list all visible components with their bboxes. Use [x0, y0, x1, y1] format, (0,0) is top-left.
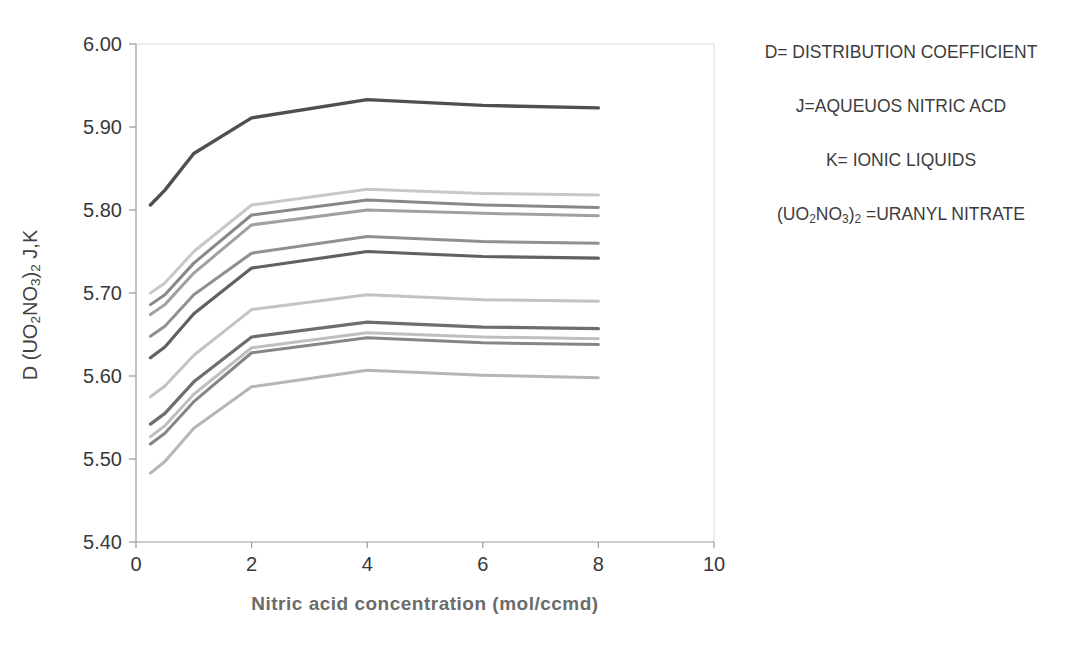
x-axis-tick-label: 0	[114, 553, 158, 575]
y-axis-tick-label: 5.90	[58, 116, 122, 138]
series-line-10	[150, 338, 598, 444]
legend-note-distribution-coefficient: D= DISTRIBUTION COEFFICIENT	[738, 42, 1064, 63]
legend-notes: D= DISTRIBUTION COEFFICIENT J=AQUEUOS NI…	[738, 42, 1064, 230]
y-axis-tick-label: 5.80	[58, 199, 122, 221]
y-axis-tick-label: 5.40	[58, 531, 122, 553]
y-axis-tick-label: 5.50	[58, 448, 122, 470]
series-line-11	[150, 370, 598, 473]
y-axis-tick-label: 5.70	[58, 282, 122, 304]
x-axis-title: Nitric acid concentration (mol/ccmd)	[136, 593, 714, 615]
y-axis-tick-label: 6.00	[58, 33, 122, 55]
series-line-09	[150, 333, 598, 437]
legend-note-ionic-liquids: K= IONIC LIQUIDS	[738, 150, 1064, 171]
legend-note-uranyl-nitrate: (UO2NO3)2 =URANYL NITRATE	[738, 204, 1064, 230]
x-axis-tick-label: 10	[692, 553, 736, 575]
legend-note-aqueous-nitric-acid: J=AQUEUOS NITRIC ACD	[738, 96, 1064, 117]
x-axis-tick-label: 4	[345, 553, 389, 575]
series-line-06	[150, 252, 598, 358]
x-axis-tick-label: 6	[461, 553, 505, 575]
y-axis-title: D (UO2NO3)2 J,K	[19, 230, 44, 380]
y-axis-tick-label: 5.60	[58, 365, 122, 387]
x-axis-tick-label: 2	[230, 553, 274, 575]
chart-canvas: 6.005.905.805.705.605.505.400246810 D (U…	[0, 0, 1067, 658]
x-axis-tick-label: 8	[576, 553, 620, 575]
